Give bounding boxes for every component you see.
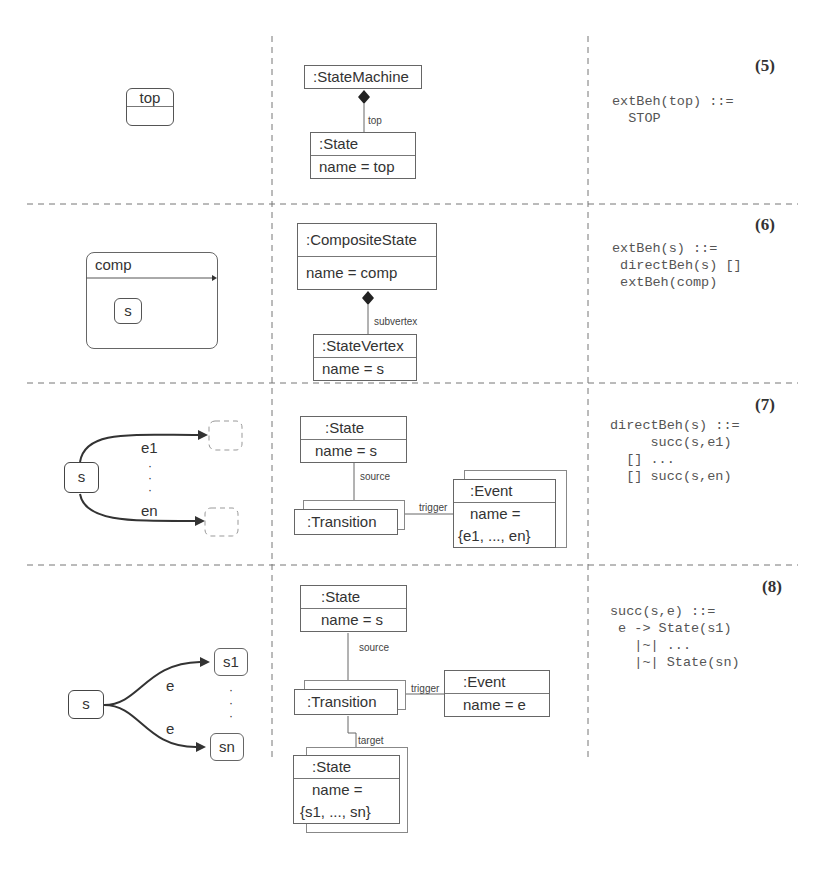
target-state-attr: name =: [294, 778, 399, 801]
target-state-box: :State name = {s1, ..., sn}: [293, 755, 400, 824]
role-trigger: trigger: [411, 683, 439, 694]
code-line: |~| ...: [610, 638, 691, 653]
transition-box: :Transition: [294, 689, 398, 715]
target-state-attr-values: {s1, ..., sn}: [294, 801, 399, 823]
event-attr: name = e: [445, 693, 549, 716]
event-box: :Event name = e: [444, 670, 550, 717]
row-8: s e e s1 ··· sn :State name = s source :…: [0, 0, 833, 869]
event-class: :Event: [445, 671, 549, 693]
code-line: succ(s,e) ::=: [610, 604, 715, 619]
role-source: source: [359, 642, 389, 653]
code-line: e -> State(s1): [610, 621, 732, 636]
association-lines: [0, 0, 588, 869]
rule-number-8: (8): [762, 577, 782, 597]
code-line: |~| State(sn): [610, 655, 740, 670]
role-target: target: [358, 735, 384, 746]
target-state-class: :State: [294, 756, 399, 778]
code-rule-8: succ(s,e) ::= e -> State(s1) |~| ... |~|…: [610, 603, 740, 671]
transition-class: :Transition: [295, 690, 397, 714]
